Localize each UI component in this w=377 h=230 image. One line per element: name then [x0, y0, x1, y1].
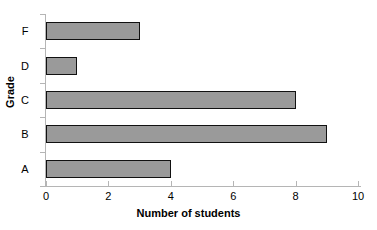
x-axis-title: Number of students	[0, 207, 377, 219]
y-axis-title: Grade	[4, 62, 16, 122]
bar-c	[46, 91, 296, 109]
y-tick	[40, 14, 45, 15]
y-tick	[40, 83, 45, 84]
x-tick-label-8: 8	[281, 190, 311, 202]
category-label-f: F	[12, 26, 38, 37]
x-tick-label-0: 0	[31, 190, 61, 202]
x-tick-10	[358, 181, 359, 186]
bar-b	[46, 125, 327, 143]
x-axis-line	[40, 186, 361, 187]
category-label-b: B	[12, 129, 38, 140]
category-label-a: A	[12, 164, 38, 175]
bar-d	[46, 57, 77, 75]
bars-layer	[46, 14, 358, 186]
x-tick-label-6: 6	[218, 190, 248, 202]
y-tick	[40, 152, 45, 153]
bar-a	[46, 160, 171, 178]
y-tick	[40, 117, 45, 118]
y-tick	[40, 48, 45, 49]
y-tick	[40, 186, 45, 187]
x-tick-label-4: 4	[156, 190, 186, 202]
bar-f	[46, 22, 140, 40]
x-tick-label-10: 10	[343, 190, 373, 202]
x-tick-label-2: 2	[93, 190, 123, 202]
chart-title: Grade distribution	[46, 0, 162, 2]
bar-chart: Grade distribution FDCBA 0246810 Grade N…	[0, 0, 377, 230]
